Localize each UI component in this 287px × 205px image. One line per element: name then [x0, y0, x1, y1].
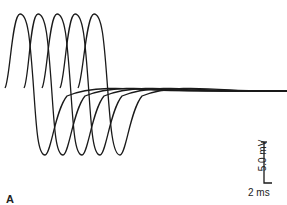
action-potential-traces [5, 14, 287, 155]
waveform-5 [78, 14, 287, 155]
waveform-plot [0, 0, 287, 205]
scale-bar-time-label: 2 ms [248, 187, 270, 198]
panel-label: A [6, 193, 14, 205]
waveform-4 [60, 14, 287, 155]
scale-bar-voltage-label: 5.0 mV [257, 136, 268, 176]
waveform-2 [24, 14, 287, 155]
